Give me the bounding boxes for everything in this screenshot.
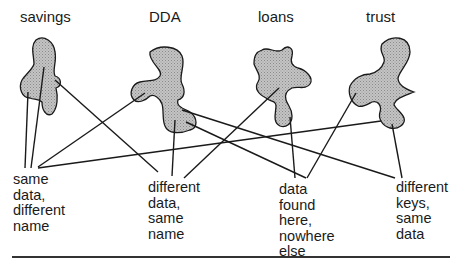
annotation-different-data-same-name: different data, same name	[148, 180, 200, 242]
connection-line	[307, 93, 356, 178]
savings-data-blob	[20, 38, 60, 115]
connection-line	[25, 92, 28, 168]
trust-data-blob	[349, 38, 414, 129]
connection-lines	[25, 67, 402, 178]
bottom-rule	[12, 256, 450, 258]
annotation-different-keys-same-data: different keys, same data	[396, 180, 448, 242]
connection-line	[290, 117, 295, 178]
connection-line	[38, 121, 381, 168]
diagram-canvas	[0, 0, 457, 272]
connection-line	[184, 88, 279, 178]
dda-data-blob	[131, 47, 196, 133]
annotation-same-data-different-name: same data, different name	[13, 172, 65, 234]
annotation-data-found-here-nowhere-else: data found here, nowhere else	[279, 182, 335, 260]
connection-line	[392, 124, 402, 178]
loans-data-blob	[254, 47, 311, 126]
